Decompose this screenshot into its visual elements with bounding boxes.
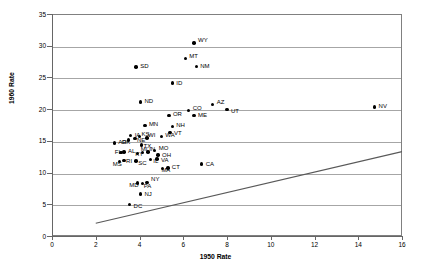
y-tick-label-35: 35 [30, 11, 46, 18]
y-tick-5 [47, 204, 52, 205]
y-tick-20 [47, 109, 52, 110]
x-tick-label-16: 16 [392, 241, 412, 248]
scatter-chart: WYMTNMSDIDNDAZUTNVCOMEORNHVTMNWAIAKSNEWI… [0, 0, 431, 273]
y-tick-10 [47, 173, 52, 174]
x-tick-4 [140, 236, 141, 240]
y-tick-label-5: 5 [30, 201, 46, 208]
y-tick-label-0: 0 [30, 233, 46, 240]
x-tick-8 [227, 236, 228, 240]
x-tick-label-4: 4 [130, 241, 150, 248]
y-tick-15 [47, 141, 52, 142]
y-axis-title: 1960 Rate [8, 72, 15, 104]
x-tick-label-12: 12 [305, 241, 325, 248]
y-tick-label-25: 25 [30, 74, 46, 81]
y-tick-35 [47, 14, 52, 15]
x-tick-label-0: 0 [42, 241, 62, 248]
x-tick-2 [96, 236, 97, 240]
x-tick-12 [315, 236, 316, 240]
y-tick-30 [47, 46, 52, 47]
x-tick-label-8: 8 [217, 241, 237, 248]
x-tick-label-14: 14 [348, 241, 368, 248]
x-tick-6 [183, 236, 184, 240]
y-tick-25 [47, 77, 52, 78]
trend-line [52, 14, 402, 236]
x-tick-label-10: 10 [261, 241, 281, 248]
y-tick-label-20: 20 [30, 106, 46, 113]
y-tick-label-30: 30 [30, 42, 46, 49]
y-tick-label-15: 15 [30, 137, 46, 144]
x-tick-14 [358, 236, 359, 240]
x-tick-16 [402, 236, 403, 240]
x-tick-10 [271, 236, 272, 240]
y-tick-label-10: 10 [30, 169, 46, 176]
x-axis-title: 1950 Rate [0, 253, 431, 260]
x-tick-0 [52, 236, 53, 240]
x-tick-label-6: 6 [173, 241, 193, 248]
x-tick-label-2: 2 [86, 241, 106, 248]
